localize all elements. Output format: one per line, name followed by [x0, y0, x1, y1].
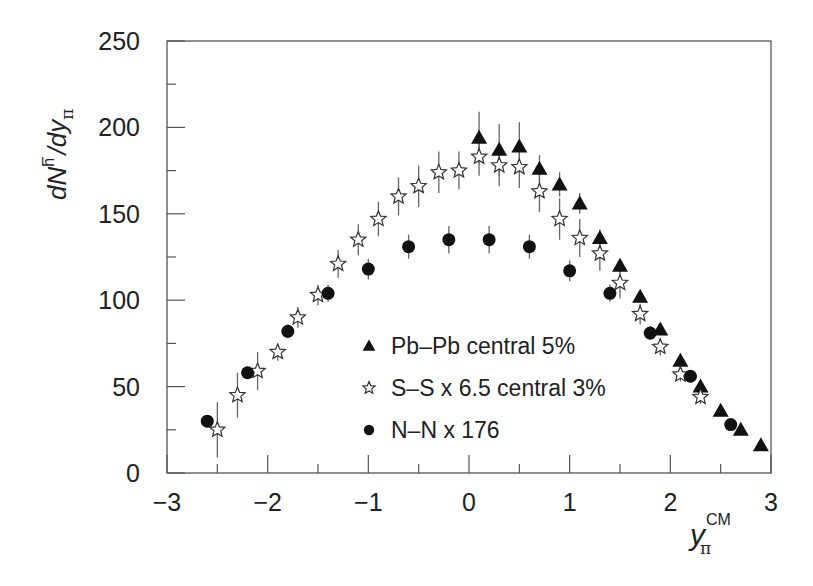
- star-marker: [363, 382, 375, 394]
- triangle-marker: [592, 230, 608, 244]
- x-title-sup: CM: [706, 511, 731, 528]
- star-marker: [492, 157, 507, 171]
- star-marker: [351, 232, 366, 246]
- circle-marker: [563, 264, 576, 277]
- legend-item: Pb–Pb central 5%: [363, 333, 576, 359]
- circle-marker: [483, 233, 496, 246]
- y-title-mid: /dy: [42, 118, 72, 157]
- triangle-marker: [632, 289, 648, 303]
- y-tick-label: 200: [98, 113, 140, 141]
- chart-canvas: −3−2−10123 050100150200250 Pb–Pb central…: [0, 0, 813, 586]
- circle-marker: [241, 366, 254, 379]
- star-marker: [532, 183, 547, 197]
- star-marker: [572, 230, 587, 244]
- y-tick-label: 50: [112, 373, 140, 401]
- star-marker: [331, 256, 346, 270]
- circle-marker: [523, 240, 536, 253]
- triangle-marker: [531, 161, 547, 175]
- star-marker: [391, 189, 406, 203]
- star-marker: [431, 164, 446, 178]
- circle-marker: [644, 327, 657, 340]
- triangle-marker: [713, 403, 729, 417]
- triangle-marker: [753, 437, 769, 451]
- y-title-minus: −: [34, 157, 51, 166]
- triangle-marker: [363, 340, 376, 351]
- circle-marker: [322, 287, 335, 300]
- circle-marker: [201, 415, 214, 428]
- legend: Pb–Pb central 5%S–S x 6.5 central 3%N–N …: [363, 333, 606, 443]
- legend-item: S–S x 6.5 central 3%: [363, 375, 606, 401]
- plot-frame: [167, 41, 771, 473]
- y-axis-title: dNh−/dyπ: [34, 109, 77, 200]
- circle-marker: [362, 263, 375, 276]
- x-tick-label: 1: [563, 488, 577, 516]
- legend-label: Pb–Pb central 5%: [391, 333, 575, 359]
- x-axis-title: yCMπ: [688, 511, 731, 558]
- circle-marker: [402, 240, 415, 253]
- triangle-marker: [552, 176, 568, 190]
- x-tick-label: 2: [663, 488, 677, 516]
- circle-marker: [364, 425, 374, 435]
- star-marker: [290, 309, 305, 323]
- y-title-sub: π: [57, 109, 77, 120]
- x-tick-label: −3: [153, 488, 182, 516]
- triangle-marker: [612, 258, 628, 272]
- star-marker: [411, 178, 426, 192]
- x-tick-label: 3: [764, 488, 778, 516]
- x-tick-label: −1: [354, 488, 383, 516]
- star-marker: [230, 387, 245, 401]
- y-tick-label: 100: [98, 286, 140, 314]
- plot-border: [167, 41, 771, 473]
- legend-item: N–N x 176: [364, 417, 500, 443]
- x-axis: −3−2−10123: [153, 455, 778, 516]
- circle-marker: [442, 233, 455, 246]
- triangle-marker: [491, 142, 507, 156]
- triangle-marker: [572, 195, 588, 209]
- y-tick-label: 0: [126, 459, 140, 487]
- star-marker: [471, 149, 486, 163]
- star-marker: [612, 275, 627, 289]
- triangle-marker: [672, 353, 688, 367]
- triangle-marker: [471, 130, 487, 144]
- y-tick-label: 150: [98, 200, 140, 228]
- legend-label: S–S x 6.5 central 3%: [391, 375, 606, 401]
- series-errorbars: [217, 138, 700, 458]
- y-title-main: dN: [42, 167, 72, 200]
- circle-marker: [281, 325, 294, 338]
- data-series: [201, 112, 769, 458]
- y-axis: 050100150200250: [98, 27, 185, 487]
- star-marker: [270, 344, 285, 358]
- circle-marker: [603, 287, 616, 300]
- x-tick-label: 0: [462, 488, 476, 516]
- circle-marker: [684, 370, 697, 383]
- star-marker: [653, 339, 668, 353]
- circle-marker: [724, 418, 737, 431]
- x-title-sub: π: [700, 538, 711, 558]
- legend-label: N–N x 176: [391, 417, 500, 443]
- y-tick-label: 250: [98, 27, 140, 55]
- x-tick-label: −2: [253, 488, 282, 516]
- triangle-marker: [511, 138, 527, 152]
- star-marker: [451, 163, 466, 177]
